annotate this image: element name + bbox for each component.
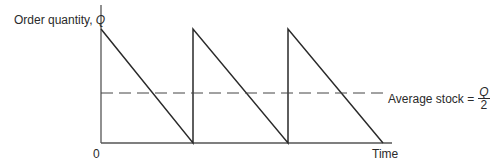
- y-axis-label: Order quantity, Q: [14, 13, 105, 27]
- fraction-denominator: 2: [481, 99, 488, 111]
- x-axis-label: Time: [372, 147, 398, 161]
- average-fraction: Q 2: [478, 86, 489, 111]
- origin-label: 0: [93, 147, 100, 161]
- average-stock-text: Average stock =: [388, 92, 474, 106]
- y-axis-label-text: Order quantity,: [14, 13, 92, 27]
- average-stock-label: Average stock = Q 2: [388, 86, 490, 111]
- y-axis-symbol: Q: [96, 13, 105, 27]
- inventory-sawtooth-line: [101, 29, 383, 143]
